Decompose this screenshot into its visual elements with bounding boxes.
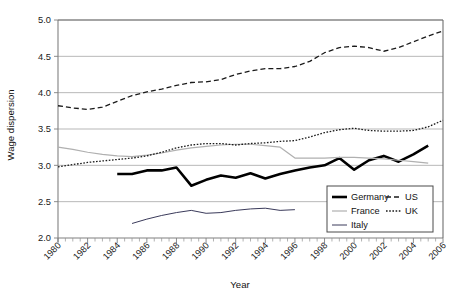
x-tick-label: 1992 xyxy=(219,240,240,261)
x-tick-label: 1986 xyxy=(130,240,151,261)
x-tick-label: 2004 xyxy=(397,240,418,261)
y-tick-label: 5.0 xyxy=(38,15,51,25)
chart-legend: GermanyUSFranceUKItaly xyxy=(327,186,433,232)
y-axis-ticks-group xyxy=(54,20,58,242)
y-tick-label: 4.5 xyxy=(38,52,51,62)
y-tick-label: 2.0 xyxy=(38,233,51,243)
legend-label-germany: Germany xyxy=(351,192,389,202)
y-tick-label: 3.0 xyxy=(38,161,51,171)
x-tick-label: 1994 xyxy=(249,240,270,261)
x-tick-label: 2006 xyxy=(427,240,448,261)
x-tick-label: 1984 xyxy=(101,240,122,261)
legend-label-france: France xyxy=(351,206,380,216)
x-tick-label: 1982 xyxy=(71,240,92,261)
legend-label-italy: Italy xyxy=(351,220,368,230)
x-tick-label: 1990 xyxy=(190,240,211,261)
x-axis-labels-group: 1980198219841986198819901992199419961998… xyxy=(42,240,448,261)
x-axis-title: Year xyxy=(230,279,250,290)
series-line-us xyxy=(58,31,443,109)
y-axis-labels-group: 2.02.53.03.54.04.55.0 xyxy=(38,15,51,243)
x-tick-label: 1988 xyxy=(160,240,181,261)
x-tick-label: 1996 xyxy=(278,240,299,261)
series-line-italy xyxy=(132,208,295,223)
x-tick-label: 1998 xyxy=(308,240,329,261)
x-tick-label: 2002 xyxy=(367,240,388,261)
x-tick-label: 1980 xyxy=(42,240,63,261)
x-tick-label: 2000 xyxy=(338,240,359,261)
legend-label-uk: UK xyxy=(405,206,419,216)
chart-canvas: 2.02.53.03.54.04.55.0 198019821984198619… xyxy=(0,0,470,295)
wage-dispersion-chart: 2.02.53.03.54.04.55.0 198019821984198619… xyxy=(0,0,470,295)
y-tick-label: 2.5 xyxy=(38,197,51,207)
series-line-uk xyxy=(58,120,443,167)
y-axis-title: Wage dispersion xyxy=(5,89,16,160)
y-tick-label: 3.5 xyxy=(38,124,51,134)
legend-label-us: US xyxy=(405,192,418,202)
y-tick-label: 4.0 xyxy=(38,88,51,98)
